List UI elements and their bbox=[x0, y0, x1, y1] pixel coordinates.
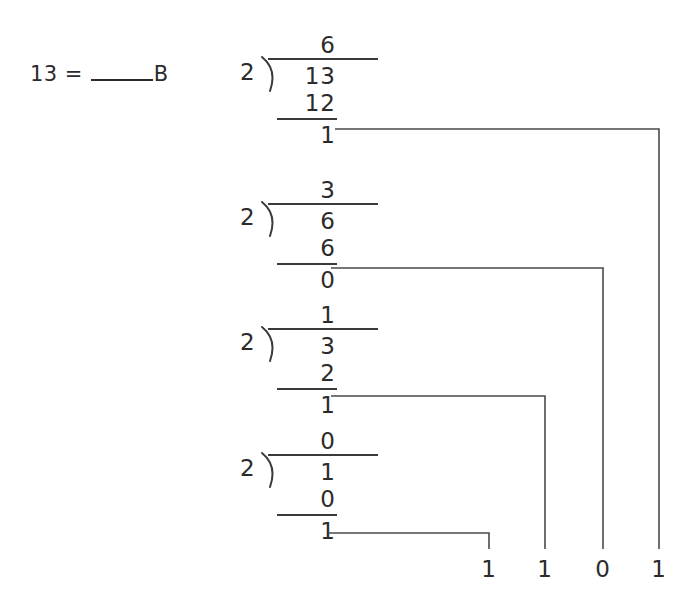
subtraction-rule bbox=[277, 118, 337, 120]
quotient: 3 bbox=[320, 177, 336, 203]
product: 2 bbox=[320, 360, 336, 386]
result-digit: 1 bbox=[479, 556, 499, 582]
result-digit: 0 bbox=[593, 556, 613, 582]
subtraction-rule bbox=[277, 388, 337, 390]
problem-statement: 13 = B bbox=[30, 62, 169, 86]
remainder: 1 bbox=[320, 392, 336, 418]
result-digit: 1 bbox=[649, 556, 669, 582]
divisor: 2 bbox=[240, 329, 256, 355]
remainder: 1 bbox=[320, 518, 336, 544]
vinculum bbox=[268, 58, 378, 60]
remainder: 1 bbox=[320, 122, 336, 148]
division-step-1: 2 6 13 12 1 bbox=[236, 32, 436, 152]
product: 6 bbox=[320, 235, 336, 261]
dividend: 13 bbox=[305, 63, 336, 89]
division-step-2: 2 3 6 6 0 bbox=[236, 177, 436, 297]
vinculum bbox=[268, 454, 378, 456]
binary-conversion-figure: 13 = B 2 6 13 12 1 2 3 6 6 0 2 1 bbox=[0, 0, 689, 610]
answer-blank[interactable] bbox=[91, 62, 153, 81]
divisor: 2 bbox=[240, 455, 256, 481]
dividend: 1 bbox=[320, 459, 336, 485]
product: 0 bbox=[320, 486, 336, 512]
division-hook-icon bbox=[261, 452, 277, 488]
division-hook-icon bbox=[261, 326, 277, 362]
quotient: 0 bbox=[320, 428, 336, 454]
subtraction-rule bbox=[277, 263, 337, 265]
divisor: 2 bbox=[240, 59, 256, 85]
division-hook-icon bbox=[261, 56, 277, 92]
equals-sign: = bbox=[65, 62, 83, 86]
vinculum bbox=[268, 328, 378, 330]
product: 12 bbox=[305, 90, 336, 116]
dividend: 3 bbox=[320, 333, 336, 359]
decimal-value: 13 bbox=[30, 62, 58, 86]
remainder: 0 bbox=[320, 267, 336, 293]
division-step-3: 2 1 3 2 1 bbox=[236, 302, 436, 422]
vinculum bbox=[268, 203, 378, 205]
base-label: B bbox=[154, 62, 169, 86]
quotient: 6 bbox=[320, 32, 336, 58]
divisor: 2 bbox=[240, 204, 256, 230]
subtraction-rule bbox=[277, 514, 337, 516]
dividend: 6 bbox=[320, 208, 336, 234]
division-hook-icon bbox=[261, 201, 277, 237]
quotient: 1 bbox=[320, 302, 336, 328]
division-step-4: 2 0 1 0 1 bbox=[236, 428, 436, 548]
result-digit: 1 bbox=[535, 556, 555, 582]
